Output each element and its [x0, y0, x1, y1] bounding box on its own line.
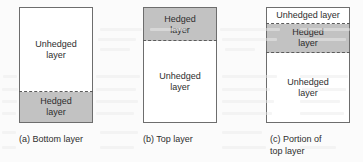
panel-a-box: Unhedged layer Hedged layer [19, 7, 93, 123]
panel-c-hedged-layer-label: Hedged layer [290, 27, 326, 49]
panel-a-caption: (a) Bottom layer [19, 133, 83, 145]
panel-b-hedged-layer-band: Hedged layer [144, 8, 216, 41]
panel-b-unhedged-layer-label: Unhedged layer [157, 71, 203, 93]
panel-c-hedged-layer-band: Hedged layer [267, 24, 349, 53]
panel-a-unhedged-layer-label: Unhedged layer [33, 39, 79, 61]
panel-c-box: Unhedged layer Hedged layer Unhedged lay… [266, 7, 350, 123]
panel-a-hedged-layer-label: Hedged layer [38, 96, 74, 118]
panel-b-caption: (b) Top layer [143, 133, 193, 145]
layer-diagram-figure: Unhedged layer Hedged layer (a) Bottom l… [0, 0, 363, 162]
panel-b-unhedged-layer-band: Unhedged layer [144, 41, 216, 122]
panel-c-unhedged-layer-bottom-label: Unhedged layer [285, 77, 331, 99]
panel-c-unhedged-layer-top-label: Unhedged layer [274, 10, 342, 21]
panel-c-unhedged-layer-bottom-band: Unhedged layer [267, 53, 349, 122]
panel-a-unhedged-layer-band: Unhedged layer [20, 8, 92, 92]
panel-c-unhedged-layer-top-band: Unhedged layer [267, 8, 349, 24]
panel-b-box: Hedged layer Unhedged layer [143, 7, 217, 123]
panel-a-hedged-layer-band: Hedged layer [20, 92, 92, 122]
panel-c-caption: (c) Portion of top layer [270, 133, 322, 157]
panel-b-hedged-layer-label: Hedged layer [162, 14, 198, 36]
